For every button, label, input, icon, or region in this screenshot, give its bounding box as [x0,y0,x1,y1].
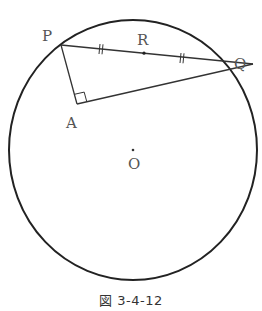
segment-pq [61,45,253,64]
figure-caption: 図 3-4-12 [0,290,262,309]
geometry-figure: P Q R A O [0,0,262,311]
label-q: Q [234,55,246,73]
label-a: A [65,114,77,132]
label-p: P [42,27,52,45]
point-r-dot [142,52,145,55]
label-o: O [128,155,140,173]
point-o-dot [132,149,135,152]
segment-aq [77,64,253,104]
label-r: R [137,31,149,49]
equal-mark-rq [180,53,184,63]
segment-pa [61,45,77,104]
